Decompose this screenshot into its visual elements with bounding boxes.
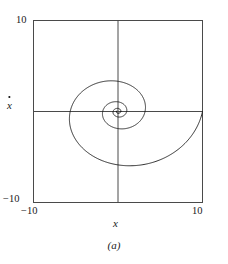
y-axis-title-glyph: x <box>7 100 12 111</box>
x-axis-min-tick-label: −10 <box>21 206 37 217</box>
y-axis-max-tick-label: 10 <box>16 15 27 26</box>
x-axis-max-tick-label: 10 <box>192 206 203 217</box>
x-axis-title: x <box>113 218 118 229</box>
y-axis-min-tick-label: −10 <box>3 194 19 205</box>
overdot-icon <box>9 96 11 98</box>
y-axis-title: x <box>7 100 12 111</box>
figure-container: 10 −10 −10 10 x x (a) <box>0 0 228 264</box>
figure-caption: (a) <box>0 240 228 251</box>
